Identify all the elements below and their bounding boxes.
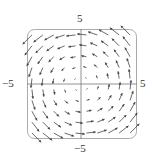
arrowhead-icon [77,33,80,36]
arrowhead-icon [30,85,33,88]
arrowhead-icon [66,34,69,37]
y-max-label: 5 [77,13,83,24]
arrowhead-icon [130,80,133,83]
x-min-label: −5 [2,78,14,89]
arrowhead-icon [82,133,85,136]
y-min-label: −5 [74,143,86,154]
arrowhead-icon [31,96,34,99]
vector-field-plot [0,0,152,163]
arrowhead-icon [128,69,131,72]
arrowhead-icon [93,131,96,134]
x-max-label: 5 [140,78,146,89]
